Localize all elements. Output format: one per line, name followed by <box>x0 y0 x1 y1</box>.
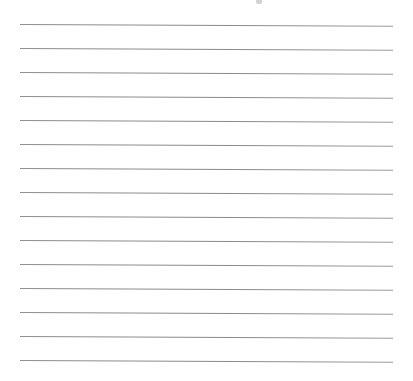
ruled-line <box>20 336 393 339</box>
ruled-line <box>20 216 393 219</box>
ruled-line <box>20 48 393 51</box>
ruled-line <box>20 192 393 195</box>
ruled-line <box>20 72 393 75</box>
ruled-line <box>20 24 393 27</box>
ruled-line <box>20 120 393 123</box>
ruled-line <box>20 288 393 291</box>
ruled-line <box>20 312 393 315</box>
ruled-line <box>20 240 393 243</box>
ruled-line <box>20 96 393 99</box>
ruled-line <box>20 264 393 267</box>
ruled-line <box>20 360 393 363</box>
top-edge-mark <box>256 0 262 4</box>
ruled-line <box>20 168 393 171</box>
lined-paper-page <box>0 0 413 381</box>
ruled-line <box>20 144 393 147</box>
